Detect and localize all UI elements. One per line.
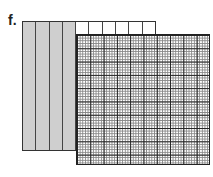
figure-label: f. (8, 12, 17, 28)
shaded-column (36, 22, 49, 150)
shaded-column (50, 22, 63, 150)
shaded-column (23, 22, 36, 150)
hundredths-grid (76, 34, 210, 165)
shaded-column (63, 22, 76, 150)
